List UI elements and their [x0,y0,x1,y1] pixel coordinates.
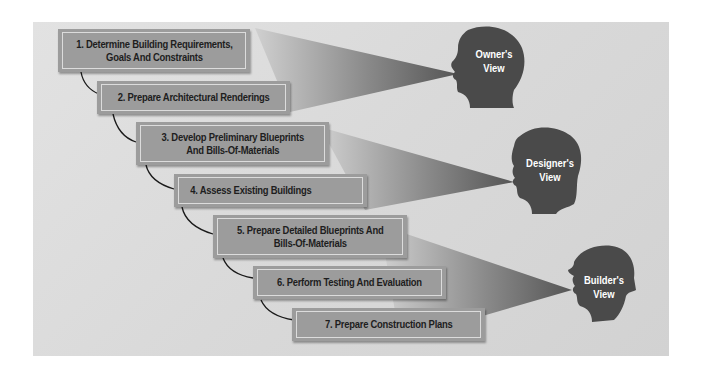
step-2-text: 2. Prepare Architectural Renderings [118,91,270,104]
step-1-line2: Goals And Constraints [76,51,232,64]
builder-view-label-line2: View [578,287,630,301]
builder-view-label: Builder's View [578,273,630,301]
step-5-text: 5. Prepare Detailed Blueprints And Bills… [237,224,383,250]
step-7-inner: 7. Prepare Construction Plans [296,311,481,338]
step-4-inner: 4. Assess Existing Buildings [178,177,363,204]
step-6-box: 6. Perform Testing And Evaluation [253,266,446,299]
connector-3-4 [146,165,174,189]
designer-view-label-line2: View [524,170,576,184]
step-5-box: 5. Prepare Detailed Blueprints And Bills… [213,215,407,258]
building-design-process-diagram: 1. Determine Building Requirements, Goal… [0,0,702,376]
designer-view-label-line1: Designer's [524,156,576,170]
connector-6-7 [261,300,294,320]
owner-view-label: Owner's View [471,47,517,75]
step-3-line1: 3. Develop Preliminary Blueprints [161,131,303,144]
step-4-box: 4. Assess Existing Buildings [174,174,367,207]
step-1-line1: 1. Determine Building Requirements, [76,38,232,51]
step-5-line2: Bills-Of-Materials [237,237,383,250]
step-2-inner: 2. Prepare Architectural Renderings [101,84,286,111]
step-7-box: 7. Prepare Construction Plans [292,308,485,341]
builder-view-label-line1: Builder's [578,273,630,287]
step-3-inner: 3. Develop Preliminary Blueprints And Bi… [140,125,325,162]
step-1-box: 1. Determine Building Requirements, Goal… [58,29,250,72]
connector-2-3 [113,114,136,142]
step-5-inner: 5. Prepare Detailed Blueprints And Bills… [217,218,403,255]
step-5-line1: 5. Prepare Detailed Blueprints And [237,224,383,237]
connector-5-6 [223,258,253,278]
step-1-text: 1. Determine Building Requirements, Goal… [76,38,232,64]
designer-view-label: Designer's View [524,156,576,184]
connector-4-5 [182,207,213,234]
owner-view-label-line1: Owner's [471,47,517,61]
step-7-text: 7. Prepare Construction Plans [325,318,453,331]
owner-view-label-line2: View [471,61,517,75]
step-3-text: 3. Develop Preliminary Blueprints And Bi… [161,131,303,157]
step-6-inner: 6. Perform Testing And Evaluation [257,269,442,296]
step-6-text: 6. Perform Testing And Evaluation [277,276,422,289]
step-1-inner: 1. Determine Building Requirements, Goal… [62,32,246,69]
step-3-line2: And Bills-Of-Materials [161,144,303,157]
step-3-box: 3. Develop Preliminary Blueprints And Bi… [136,122,329,165]
step-2-box: 2. Prepare Architectural Renderings [97,81,290,114]
step-4-text: 4. Assess Existing Buildings [190,184,311,197]
